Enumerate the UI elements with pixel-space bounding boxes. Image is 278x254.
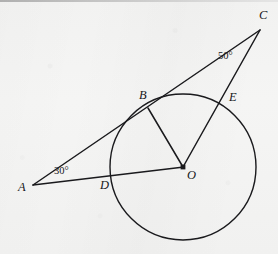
geometry-figure: ABCDEO30°50°: [0, 0, 278, 254]
point-label-d: D: [100, 179, 109, 192]
point-label-o: O: [187, 169, 196, 182]
point-label-a: A: [18, 181, 26, 194]
angle-label-50: 50°: [218, 51, 233, 62]
geometry-canvas: [0, 0, 278, 254]
point-label-b: B: [139, 89, 147, 102]
point-dots-group: [181, 165, 186, 170]
angle-label-30: 30°: [54, 166, 69, 177]
segment-b-to-o: [148, 108, 183, 167]
point-dot-o: [181, 165, 186, 170]
point-label-e: E: [229, 91, 237, 104]
point-label-c: C: [259, 9, 267, 22]
